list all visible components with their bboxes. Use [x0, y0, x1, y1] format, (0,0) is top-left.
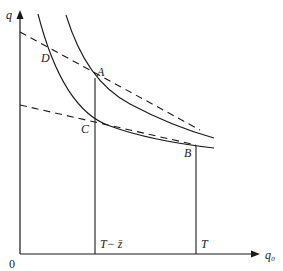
- point-c-label: C: [81, 122, 90, 136]
- y-axis-arrow-icon: [17, 10, 24, 19]
- point-a-label: A: [96, 65, 105, 79]
- lower-dashed-line: [20, 105, 196, 145]
- origin-label: 0: [9, 257, 15, 271]
- inner-curve: [38, 14, 214, 148]
- upper-dashed-line: [20, 32, 200, 130]
- diagram-canvas: q q₀ 0 A B C D T− z̄ T: [0, 0, 283, 271]
- tick-t-label: T: [201, 237, 209, 251]
- point-b-label: B: [184, 146, 192, 160]
- y-axis-label: q: [6, 8, 12, 22]
- point-d-label: D: [40, 51, 50, 65]
- axes: [20, 18, 252, 254]
- x-axis-label: q₀: [265, 248, 275, 262]
- x-axis-arrow-icon: [251, 251, 260, 258]
- tick-t-minus-z-label: T− z̄: [100, 237, 123, 251]
- outer-curve: [66, 15, 214, 138]
